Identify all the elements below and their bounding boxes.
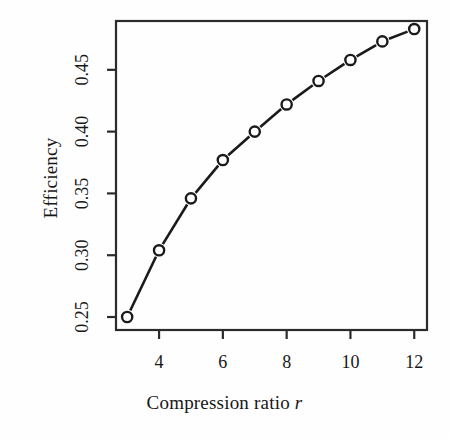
data-point-marker <box>377 36 387 46</box>
x-tick-label: 4 <box>129 352 189 373</box>
data-point-marker <box>250 127 260 137</box>
y-tick-label: 0.45 <box>72 40 93 100</box>
data-point-marker <box>218 155 228 165</box>
x-axis-title-variable: r <box>295 392 303 413</box>
x-axis-title-text: Compression ratio <box>147 392 290 413</box>
y-tick-label: 0.25 <box>72 287 93 347</box>
y-axis-title: Efficiency <box>40 0 62 358</box>
y-tick-label: 0.35 <box>72 163 93 223</box>
data-point-marker <box>313 76 323 86</box>
data-point-marker <box>345 55 355 65</box>
x-axis-title: Compression ratio r <box>0 392 449 414</box>
data-point-marker <box>122 312 132 322</box>
data-point-marker <box>409 24 419 34</box>
efficiency-vs-compression-ratio-chart: Compression ratio r Efficiency 4681012 0… <box>0 0 449 439</box>
x-tick-label: 10 <box>320 352 380 373</box>
plot-canvas <box>0 0 449 439</box>
y-axis-title-text: Efficiency <box>40 138 61 219</box>
x-tick-label: 12 <box>384 352 444 373</box>
y-tick-label: 0.30 <box>72 225 93 285</box>
data-point-marker <box>154 245 164 255</box>
x-tick-label: 6 <box>193 352 253 373</box>
x-tick-label: 8 <box>257 352 317 373</box>
data-point-marker <box>186 193 196 203</box>
y-tick-label: 0.40 <box>72 102 93 162</box>
data-point-marker <box>282 99 292 109</box>
chart-background <box>0 0 449 439</box>
